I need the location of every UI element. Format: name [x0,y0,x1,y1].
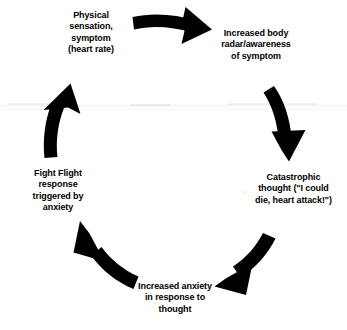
anxiety-cycle-diagram: Physical sensation, symptom (heart rate)… [0,0,347,330]
cycle-node-physical-sensation: Physical sensation, symptom (heart rate) [48,10,134,56]
cycle-node-increased-anxiety: Increased anxiety in response to thought [117,281,233,315]
arrow-bottom-left-icon [74,221,139,289]
cycle-node-fight-flight: Fight Flight response triggered by anxie… [11,168,105,214]
arrow-right-icon [264,86,306,162]
arrow-top-icon [133,7,213,44]
arrow-left-icon [44,84,81,159]
cycle-node-catastrophic-thought: Catastrophic thought ("I could die, hear… [240,172,347,206]
cycle-node-body-radar: Increased body radar/awareness of sympto… [204,28,308,62]
